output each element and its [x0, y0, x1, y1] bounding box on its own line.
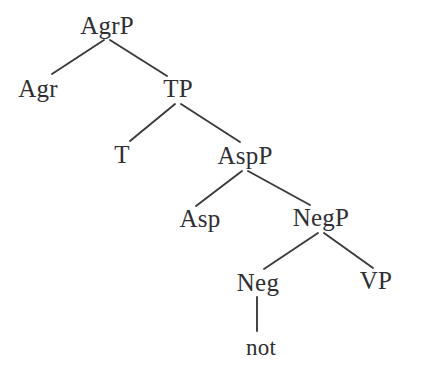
syntax-tree-figure: AgrPAgrTPTAspPAspNegPNegVPnot	[0, 0, 423, 379]
tree-node-group: AgrPAgrTPTAspPAspNegPNegVPnot	[18, 12, 392, 360]
tree-node-vp: VP	[360, 267, 392, 294]
tree-branch-agrp-to-tp	[110, 40, 167, 76]
tree-node-agrp: AgrP	[80, 12, 134, 39]
tree-node-not: not	[246, 335, 276, 360]
tree-branch-tp-to-aspp	[181, 104, 240, 142]
tree-node-t: T	[114, 141, 129, 168]
tree-node-neg: Neg	[237, 269, 280, 296]
syntax-tree-canvas: AgrPAgrTPTAspPAspNegPNegVPnot	[0, 0, 423, 379]
tree-node-tp: TP	[163, 75, 193, 102]
tree-branch-negp-to-vp	[324, 233, 373, 268]
tree-branch-negp-to-neg	[264, 233, 318, 269]
tree-branch-agrp-to-agr	[52, 40, 104, 74]
tree-branch-tp-to-t	[130, 104, 175, 141]
tree-node-aspp: AspP	[218, 142, 273, 169]
tree-node-agr: Agr	[18, 75, 58, 102]
tree-branch-aspp-to-negp	[248, 171, 310, 205]
tree-node-negp: NegP	[293, 204, 349, 231]
tree-branch-aspp-to-asp	[196, 171, 242, 206]
tree-edge-group	[52, 40, 373, 331]
tree-node-asp: Asp	[180, 205, 221, 232]
